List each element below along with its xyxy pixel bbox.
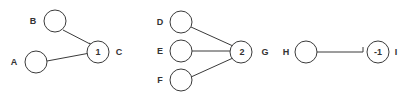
edge-d-to-g bbox=[191, 27, 233, 46]
label-i: I bbox=[395, 47, 398, 57]
value-i: -1 bbox=[374, 47, 382, 57]
value-c: 1 bbox=[95, 47, 100, 57]
label-c: C bbox=[116, 47, 123, 57]
label-h: H bbox=[283, 47, 290, 57]
label-e: E bbox=[157, 46, 163, 56]
node-d bbox=[170, 11, 192, 33]
panel-1: B A 1 C bbox=[11, 10, 123, 73]
node-b bbox=[44, 10, 66, 32]
node-f bbox=[170, 69, 192, 91]
node-e bbox=[170, 40, 192, 62]
panel-2: D E F 2 G bbox=[157, 11, 269, 91]
edge-f-to-g bbox=[191, 58, 233, 77]
label-a: A bbox=[11, 57, 18, 67]
value-g: 2 bbox=[239, 47, 244, 57]
node-h bbox=[295, 41, 317, 63]
label-g: G bbox=[261, 47, 268, 57]
edge-a-to-c bbox=[47, 53, 90, 61]
label-b: B bbox=[30, 16, 37, 26]
node-a bbox=[25, 51, 47, 73]
label-d: D bbox=[157, 17, 164, 27]
edge-b-to-c bbox=[63, 30, 92, 45]
panel-3: H -1 I bbox=[283, 41, 398, 63]
label-f: F bbox=[157, 75, 163, 85]
neuron-diagrams: B A 1 C D E F 2 G H -1 I bbox=[0, 0, 413, 101]
